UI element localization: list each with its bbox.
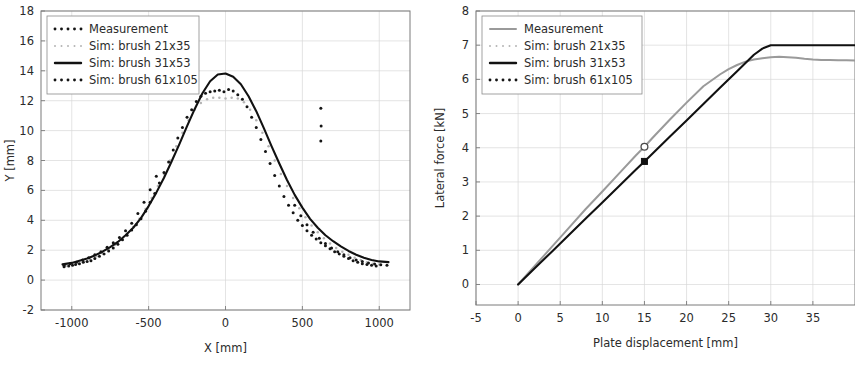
left-legend: MeasurementSim: brush 21x35Sim: brush 31…	[47, 16, 199, 94]
left-legend-label-3: Sim: brush 61x105	[89, 73, 198, 87]
right-legend-label-0: Measurement	[524, 22, 603, 36]
right-ytick-0: 0	[462, 277, 469, 291]
right-ytick-1: 1	[462, 243, 469, 257]
right-xtick-2: 5	[557, 311, 564, 325]
right-legend-label-3: Sim: brush 61x105	[524, 73, 633, 87]
right-ytick-7: 7	[462, 38, 469, 52]
left-xlabel: X [mm]	[204, 341, 247, 355]
right-xtick-4: 15	[637, 311, 652, 325]
left-xtick-0: -1000	[55, 316, 88, 330]
left-ytick-4: 6	[27, 183, 34, 197]
right-xtick-0: -5	[470, 311, 481, 325]
right-ytick-6: 6	[462, 72, 469, 86]
right-legend-label-2: Sim: brush 31x53	[524, 56, 626, 70]
right-xtick-6: 25	[721, 311, 736, 325]
left-legend-label-0: Measurement	[89, 22, 168, 36]
left-ytick-2: 2	[27, 243, 34, 257]
right-xtick-3: 10	[595, 311, 610, 325]
left-plot-panel: -2024681012141618-1000-50005001000X [mm]…	[0, 0, 428, 371]
left-ytick-3: 4	[27, 213, 34, 227]
right-xtick-8: 35	[806, 311, 821, 325]
left-legend-label-2: Sim: brush 31x53	[89, 56, 191, 70]
right-ytick-3: 3	[462, 175, 469, 189]
left-plot: -2024681012141618-1000-50005001000X [mm]…	[0, 0, 428, 371]
left-xtick-4: 1000	[365, 316, 394, 330]
left-ylabel: Y [mm]	[3, 139, 17, 182]
right-ytick-8: 8	[462, 4, 469, 18]
left-legend-label-1: Sim: brush 21x35	[89, 39, 191, 53]
left-ytick-6: 10	[19, 124, 34, 138]
left-xtick-2: 0	[222, 316, 229, 330]
left-ytick-0: -2	[23, 303, 34, 317]
right-measurement-marker	[641, 143, 648, 150]
right-xtick-7: 30	[763, 311, 778, 325]
right-legend: MeasurementSim: brush 21x35Sim: brush 31…	[482, 16, 642, 94]
figure-container: -2024681012141618-1000-50005001000X [mm]…	[0, 0, 855, 371]
left-xtick-1: -500	[136, 316, 162, 330]
right-ytick-5: 5	[462, 107, 469, 121]
left-series-measurement	[63, 88, 378, 268]
right-ylabel: Lateral force [kN]	[433, 108, 447, 209]
right-legend-label-1: Sim: brush 21x35	[524, 39, 626, 53]
left-series-outliers	[319, 107, 322, 143]
left-xtick-3: 500	[291, 316, 313, 330]
left-ytick-5: 8	[27, 154, 34, 168]
right-xlabel: Plate displacement [mm]	[593, 336, 738, 350]
left-ytick-8: 14	[19, 64, 34, 78]
right-ytick-4: 4	[462, 141, 469, 155]
left-ytick-7: 12	[19, 94, 34, 108]
right-xtick-1: 0	[514, 311, 521, 325]
right-plot: 012345678-505101520253035Plate displacem…	[428, 0, 855, 371]
right-ytick-2: 2	[462, 209, 469, 223]
right-sim-marker	[641, 158, 647, 164]
left-ytick-9: 16	[19, 34, 34, 48]
right-plot-panel: 012345678-505101520253035Plate displacem…	[428, 0, 855, 371]
right-xtick-5: 20	[679, 311, 694, 325]
left-ytick-10: 18	[19, 4, 34, 18]
left-ytick-1: 0	[27, 273, 34, 287]
